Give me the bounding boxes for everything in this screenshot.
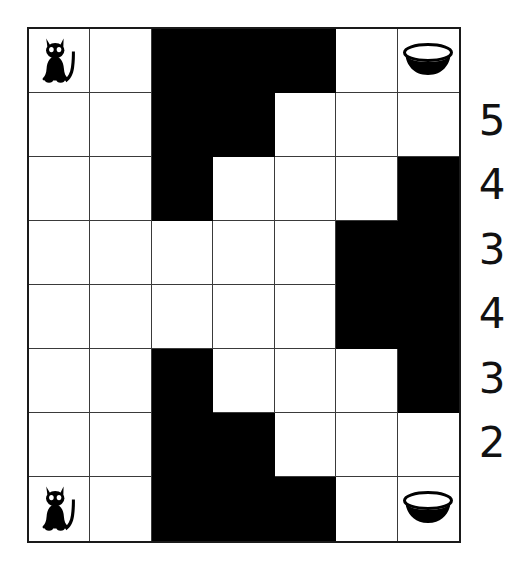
grid-cell-path[interactable]: [336, 29, 397, 93]
grid-cell-path[interactable]: [275, 221, 336, 285]
grid-cell-path[interactable]: [90, 413, 151, 477]
grid-cell-bowl[interactable]: [398, 477, 459, 541]
grid-cell-wall[interactable]: [152, 349, 213, 413]
grid-cell-wall[interactable]: [275, 477, 336, 541]
row-clue-column: 543432: [468, 27, 528, 543]
cat-icon: [39, 486, 79, 532]
grid-cell-path[interactable]: [29, 93, 90, 157]
row-clue-3: 4: [468, 164, 516, 206]
grid-cell-path[interactable]: [336, 349, 397, 413]
grid-cell-path[interactable]: [275, 93, 336, 157]
grid-cell-path[interactable]: [275, 285, 336, 349]
grid-cell-path[interactable]: [275, 349, 336, 413]
grid-cell-path[interactable]: [398, 93, 459, 157]
grid-cell-path[interactable]: [152, 285, 213, 349]
grid-cell-wall[interactable]: [275, 29, 336, 93]
puzzle-root: 543432: [0, 0, 531, 570]
grid-cell-path[interactable]: [90, 477, 151, 541]
row-clue-6: 3: [468, 358, 516, 400]
grid-cell-wall[interactable]: [152, 29, 213, 93]
grid-cell-wall[interactable]: [336, 221, 397, 285]
grid-cell-cat[interactable]: [29, 29, 90, 93]
grid-cell-wall[interactable]: [213, 93, 274, 157]
grid-cell-path[interactable]: [90, 285, 151, 349]
grid-cell-path[interactable]: [90, 349, 151, 413]
grid-cell-path[interactable]: [29, 349, 90, 413]
grid-cell-wall[interactable]: [398, 285, 459, 349]
grid-cell-cat[interactable]: [29, 477, 90, 541]
grid-cell-path[interactable]: [213, 157, 274, 221]
grid-cell-path[interactable]: [29, 285, 90, 349]
grid-cell-wall[interactable]: [152, 157, 213, 221]
grid-cell-path[interactable]: [336, 413, 397, 477]
grid-cell-path[interactable]: [90, 93, 151, 157]
grid-cell-wall[interactable]: [152, 477, 213, 541]
row-clue-2: 5: [468, 100, 516, 142]
puzzle-grid[interactable]: [29, 29, 459, 541]
grid-cell-path[interactable]: [29, 157, 90, 221]
bowl-icon: [403, 491, 453, 527]
cat-icon: [39, 38, 79, 84]
grid-cell-path[interactable]: [90, 29, 151, 93]
grid-cell-path[interactable]: [152, 221, 213, 285]
grid-cell-wall[interactable]: [336, 285, 397, 349]
grid-cell-path[interactable]: [90, 221, 151, 285]
grid-cell-path[interactable]: [398, 413, 459, 477]
grid-cell-path[interactable]: [213, 221, 274, 285]
grid-cell-wall[interactable]: [213, 29, 274, 93]
grid-cell-wall[interactable]: [398, 157, 459, 221]
grid-cell-wall[interactable]: [398, 221, 459, 285]
grid-cell-path[interactable]: [29, 221, 90, 285]
grid-cell-path[interactable]: [336, 93, 397, 157]
grid-cell-path[interactable]: [213, 285, 274, 349]
grid-cell-path[interactable]: [275, 413, 336, 477]
grid-cell-wall[interactable]: [152, 93, 213, 157]
grid-cell-wall[interactable]: [213, 477, 274, 541]
grid-cell-path[interactable]: [213, 349, 274, 413]
puzzle-grid-border: [27, 27, 461, 543]
grid-cell-path[interactable]: [29, 413, 90, 477]
bowl-icon: [403, 43, 453, 79]
row-clue-7: 2: [468, 422, 516, 464]
grid-cell-path[interactable]: [90, 157, 151, 221]
row-clue-4: 3: [468, 229, 516, 271]
grid-cell-path[interactable]: [336, 157, 397, 221]
grid-cell-bowl[interactable]: [398, 29, 459, 93]
grid-cell-wall[interactable]: [152, 413, 213, 477]
row-clue-5: 4: [468, 293, 516, 335]
grid-cell-wall[interactable]: [398, 349, 459, 413]
grid-cell-path[interactable]: [275, 157, 336, 221]
grid-cell-wall[interactable]: [213, 413, 274, 477]
grid-cell-path[interactable]: [336, 477, 397, 541]
